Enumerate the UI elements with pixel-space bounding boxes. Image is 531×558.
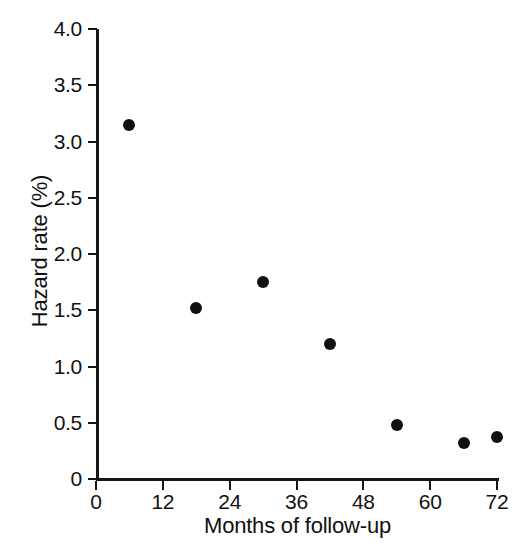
x-tick-mark: [362, 481, 364, 490]
x-tick-mark: [296, 481, 298, 490]
y-tick-mark: [88, 141, 97, 143]
x-tick-mark: [229, 481, 231, 490]
y-tick-label: 0: [71, 468, 82, 489]
y-axis-line: [96, 29, 99, 481]
y-tick-label: 2.5: [54, 187, 82, 208]
x-tick-mark: [162, 481, 164, 490]
chart-figure: 00.51.01.52.02.53.03.54.0 0122436486072 …: [0, 0, 531, 558]
x-tick-label: 72: [474, 491, 520, 512]
data-point: [458, 437, 470, 449]
y-tick-mark: [88, 422, 97, 424]
y-tick-label: 1.0: [54, 356, 82, 377]
x-tick-label: 12: [140, 491, 186, 512]
y-tick-label: 2.0: [54, 243, 82, 264]
y-tick-label: 1.5: [54, 299, 82, 320]
y-axis-title: Hazard rate (%): [29, 141, 51, 361]
x-axis-line: [96, 478, 499, 481]
x-tick-label: 48: [340, 491, 386, 512]
y-tick-mark: [88, 28, 97, 30]
data-point: [190, 302, 202, 314]
x-tick-mark: [429, 481, 431, 490]
x-tick-mark: [496, 481, 498, 490]
y-tick-mark: [88, 197, 97, 199]
x-tick-label: 0: [73, 491, 119, 512]
x-tick-label: 24: [207, 491, 253, 512]
x-axis-title: Months of follow-up: [96, 514, 499, 538]
y-tick-mark: [88, 253, 97, 255]
x-tick-mark: [95, 481, 97, 490]
data-point: [123, 119, 135, 131]
data-point: [324, 338, 336, 350]
y-tick-label: 0.5: [54, 412, 82, 433]
y-tick-mark: [88, 84, 97, 86]
x-tick-label: 36: [274, 491, 320, 512]
y-tick-label: 3.0: [54, 131, 82, 152]
y-tick-mark: [88, 366, 97, 368]
data-point: [257, 276, 269, 288]
x-tick-label: 60: [407, 491, 453, 512]
data-point: [391, 419, 403, 431]
plot-area: 00.51.01.52.02.53.03.54.0 0122436486072 …: [0, 0, 531, 558]
y-tick-mark: [88, 478, 97, 480]
y-tick-mark: [88, 309, 97, 311]
y-tick-label: 3.5: [54, 74, 82, 95]
data-point: [491, 431, 503, 443]
y-tick-label: 4.0: [54, 18, 82, 39]
